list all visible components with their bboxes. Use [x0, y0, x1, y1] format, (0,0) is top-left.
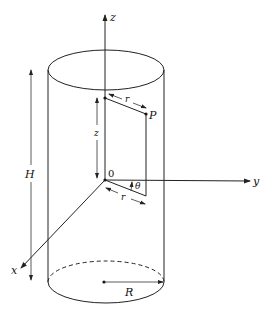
x-axis-label: x [11, 264, 18, 277]
origin-label: 0 [108, 168, 114, 179]
y-axis-label: y [252, 175, 260, 188]
cylinder-diagram: z y x 0 P r r θ z H R [0, 0, 272, 315]
r-bottom-label: r [121, 192, 126, 202]
y-axis [105, 180, 250, 181]
x-axis [21, 180, 105, 268]
cylinder-bottom-back-arc [48, 261, 164, 282]
cylinder-bottom-front-arc [48, 282, 164, 303]
r-top-arrow-right [133, 103, 146, 108]
theta-label: θ [135, 181, 141, 191]
z-axis-label: z [109, 11, 116, 24]
r-top-arrow-left [109, 94, 122, 99]
r-bottom-arrow-left [106, 188, 118, 193]
cylinder-top-ellipse [48, 50, 164, 90]
theta-arrow [131, 182, 132, 191]
r-top-label: r [125, 94, 130, 104]
z-height-label: z [93, 128, 99, 138]
r-bottom-arrow-right [131, 199, 145, 204]
h-label: H [24, 168, 35, 181]
point-p-label: P [148, 109, 157, 122]
r-base-label: R [124, 286, 133, 299]
